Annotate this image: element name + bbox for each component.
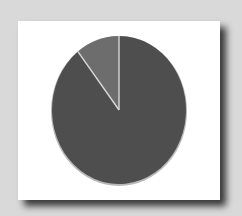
pie-slices: [52, 36, 186, 184]
pie-chart: [0, 0, 242, 216]
